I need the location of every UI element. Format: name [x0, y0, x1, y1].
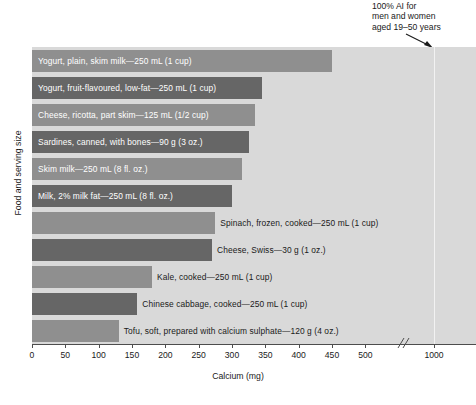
x-axis-tick [365, 344, 366, 348]
x-axis-tick [434, 344, 435, 348]
bar [32, 320, 119, 342]
x-axis-tick [232, 344, 233, 348]
x-axis-tick-label: 1000 [414, 350, 454, 360]
y-axis-title: Food and serving size [13, 108, 23, 238]
x-axis-tick [299, 344, 300, 348]
bar [32, 212, 215, 234]
x-axis-tick [65, 344, 66, 348]
plot-area: Yogurt, plain, skim milk—250 mL (1 cup)Y… [32, 47, 476, 344]
bar-label: Spinach, frozen, cooked—250 mL (1 cup) [220, 212, 378, 234]
x-axis-tick [265, 344, 266, 348]
bar-label: Yogurt, fruit-flavoured, low-fat—250 mL … [38, 77, 216, 99]
bar [32, 293, 137, 315]
bar-label: Skim milk—250 mL (8 fl. oz.) [38, 158, 148, 180]
bar [32, 239, 212, 261]
bar-label: Cheese, Swiss—30 g (1 oz.) [217, 239, 326, 261]
bar-label: Kale, cooked—250 mL (1 cup) [157, 266, 273, 288]
bar-label: Cheese, ricotta, part skim—125 mL (1/2 c… [38, 104, 209, 126]
x-axis-tick [199, 344, 200, 348]
x-axis-tick [99, 344, 100, 348]
x-axis-tick [132, 344, 133, 348]
x-axis-title: Calcium (mg) [0, 371, 476, 381]
bar-label: Yogurt, plain, skim milk—250 mL (1 cup) [38, 50, 192, 72]
bar [32, 266, 152, 288]
x-axis-tick [165, 344, 166, 348]
bar-label: Milk, 2% milk fat—250 mL (8 fl. oz.) [38, 185, 173, 207]
bar-label: Tofu, soft, prepared with calcium sulpha… [124, 320, 339, 342]
x-axis-tick [32, 344, 33, 348]
reference-line [434, 47, 435, 344]
bar-label: Chinese cabbage, cooked—250 mL (1 cup) [142, 293, 307, 315]
bar-label: Sardines, canned, with bones—90 g (3 oz.… [38, 131, 203, 153]
calcium-bar-chart-figure: 100% AI for men and women aged 19–50 yea… [0, 0, 476, 405]
x-axis-tick-label: 500 [345, 350, 385, 360]
axis-break-icon [395, 336, 413, 350]
reference-line-annotation: 100% AI for men and women aged 19–50 yea… [372, 1, 476, 32]
x-axis-tick [332, 344, 333, 348]
